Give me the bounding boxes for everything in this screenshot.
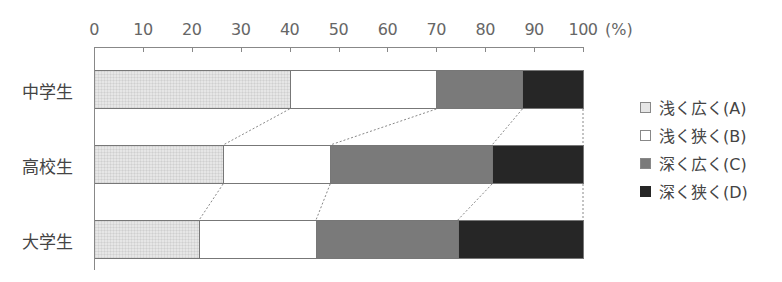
connector-line bbox=[458, 184, 492, 220]
legend-swatch-c bbox=[640, 158, 651, 169]
legend-item-b: 浅く狭く(B) bbox=[640, 121, 748, 149]
legend-label-b: 浅く狭く(B) bbox=[659, 123, 746, 147]
legend-swatch-b bbox=[640, 130, 651, 141]
legend: 浅く広く(A) 浅く狭く(B) 深く広く(C) 深く狭く(D) bbox=[640, 93, 748, 205]
legend-swatch-a bbox=[640, 102, 651, 113]
legend-item-d: 深く狭く(D) bbox=[640, 177, 748, 205]
legend-label-c: 深く広く(C) bbox=[659, 151, 747, 175]
connector-line bbox=[223, 109, 290, 145]
connector-line bbox=[330, 109, 436, 145]
connector-line bbox=[316, 184, 330, 220]
legend-item-a: 浅く広く(A) bbox=[640, 93, 748, 121]
legend-label-a: 浅く広く(A) bbox=[659, 95, 746, 119]
connector-line bbox=[492, 109, 522, 145]
legend-swatch-d bbox=[640, 186, 651, 197]
legend-item-c: 深く広く(C) bbox=[640, 149, 748, 177]
connector-line bbox=[199, 184, 223, 220]
legend-label-d: 深く狭く(D) bbox=[659, 179, 748, 203]
